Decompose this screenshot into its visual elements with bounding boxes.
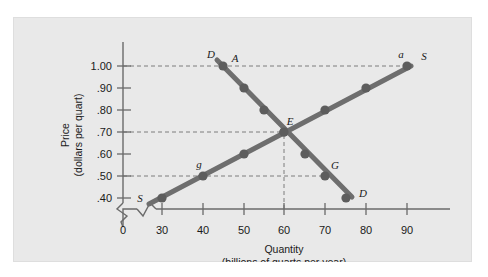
x-tick-label-50: 50	[238, 224, 250, 236]
supply-curve-line	[149, 66, 411, 204]
y-tick-label-40: .40	[97, 192, 112, 204]
figure-panel: 1.00 .90 .80 .70 .60 .50 .40 0 30 40 50 …	[13, 17, 472, 262]
y-axis-subtitle: (dollars per quart)	[72, 94, 84, 177]
x-tick-label-80: 80	[360, 224, 372, 236]
x-axis-tick-labels: 0 30 40 50 60 70 80 90	[120, 224, 413, 236]
x-tick-label-90: 90	[401, 224, 413, 236]
demand-point-60-E	[279, 127, 288, 136]
supply-point-50	[239, 149, 248, 158]
y-tick-label-100: 1.00	[91, 60, 112, 72]
demand-point-50	[239, 83, 248, 92]
x-tick-label-60: 60	[278, 224, 290, 236]
x-axis-title: Quantity	[264, 243, 304, 255]
demand-point-70-G	[320, 171, 329, 180]
point-label-A: A	[231, 52, 239, 64]
demand-curve-label-bottom: D	[358, 187, 367, 199]
point-label-G: G	[331, 159, 339, 171]
point-label-g: g	[196, 158, 202, 170]
y-tick-label-70: .70	[97, 126, 112, 138]
supply-curve-label-top: S	[421, 50, 427, 62]
y-axis-tick-labels: 1.00 .90 .80 .70 .60 .50 .40	[91, 60, 112, 204]
x-tick-label-40: 40	[197, 224, 209, 236]
point-label-E: E	[286, 115, 294, 127]
demand-point-55	[259, 105, 268, 114]
x-tick-label-30: 30	[156, 224, 168, 236]
y-tick-label-90: .90	[97, 82, 112, 94]
supply-point-90-a	[402, 61, 411, 70]
y-axis-ticks	[117, 66, 131, 198]
y-tick-label-50: .50	[97, 170, 112, 182]
demand-point-45-A	[218, 61, 227, 70]
demand-point-65	[300, 149, 309, 158]
y-axis-title: Price	[59, 123, 71, 147]
supply-point-70	[320, 105, 329, 114]
x-origin-label: 0	[120, 224, 126, 236]
point-label-a: a	[398, 48, 404, 60]
demand-point-75	[341, 193, 350, 202]
x-tick-label-70: 70	[319, 224, 331, 236]
demand-curve-group	[217, 60, 352, 203]
y-tick-label-80: .80	[97, 104, 112, 116]
supply-point-80	[361, 83, 370, 92]
x-axis-break	[137, 203, 156, 216]
supply-demand-chart: 1.00 .90 .80 .70 .60 .50 .40 0 30 40 50 …	[13, 17, 472, 262]
supply-curve-label-bottom: S	[137, 192, 143, 204]
x-axis-subtitle: (billions of quarts per year)	[222, 256, 346, 262]
supply-point-40-g	[198, 171, 207, 180]
y-tick-label-60: .60	[97, 148, 112, 160]
demand-curve-label-top: D	[206, 48, 215, 60]
supply-point-30	[157, 193, 166, 202]
